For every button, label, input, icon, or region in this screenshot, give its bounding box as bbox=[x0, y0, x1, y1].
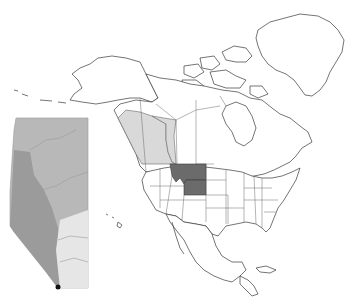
cuba bbox=[256, 266, 276, 273]
wyoming bbox=[184, 180, 206, 195]
alberta-inset bbox=[10, 118, 88, 290]
central-america bbox=[240, 276, 258, 296]
united-states bbox=[142, 166, 300, 236]
aleutian-islands bbox=[14, 90, 66, 103]
greenland bbox=[256, 14, 344, 96]
north-america-range-map bbox=[0, 0, 363, 299]
inset-location-marker bbox=[56, 285, 61, 290]
hawaii bbox=[106, 214, 122, 228]
alaska bbox=[70, 56, 158, 104]
inset-plains-zone bbox=[56, 210, 88, 288]
